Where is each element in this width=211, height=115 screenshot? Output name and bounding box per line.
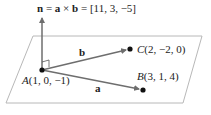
- point-A-label: A(1, 0, −1): [22, 75, 70, 86]
- normal-value: [11, 3, −5]: [90, 2, 136, 14]
- point-B-label: B(3, 1, 4): [137, 71, 179, 82]
- right-angle-marker: [42, 60, 49, 67]
- point-C-dot: [127, 46, 132, 51]
- point-A-dot: [39, 67, 44, 72]
- point-C-label: C(2, −2, 0): [137, 44, 185, 55]
- diagram-canvas: [0, 0, 211, 115]
- plane-normal-diagram: n = a × b = [11, 3, −5] b a A(1, 0, −1) …: [0, 0, 211, 115]
- point-B-dot: [140, 87, 145, 92]
- normal-vector-label: n = a × b = [11, 3, −5]: [37, 3, 136, 14]
- vector-a-label: a: [95, 83, 101, 94]
- vector-b-label: b: [79, 47, 85, 58]
